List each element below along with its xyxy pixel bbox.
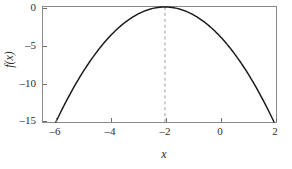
x-tick-label: –4 [90, 125, 130, 137]
x-tick-mark [111, 118, 112, 122]
x-tick-mark [166, 118, 167, 122]
y-tick-mark [43, 46, 47, 47]
x-tick-mark [221, 118, 222, 122]
parabola-path [56, 7, 274, 122]
y-tick-label: –15 [0, 114, 36, 126]
x-tick-mark [276, 118, 277, 122]
figure-canvas: 0 –5 –10 –15 f(x) –6 –4 –2 0 2 x [0, 0, 292, 169]
x-axis-label-text: x [161, 147, 166, 161]
y-tick-mark [43, 8, 47, 9]
plot-area [42, 6, 277, 123]
x-tick-label: 0 [200, 125, 240, 137]
y-tick-mark [43, 84, 47, 85]
x-axis-label: x [0, 147, 292, 162]
x-tick-label: –2 [145, 125, 185, 137]
x-tick-label: –6 [35, 125, 75, 137]
y-axis-label: f(x) [2, 32, 17, 88]
x-tick-mark [56, 118, 57, 122]
x-tick-label: 2 [255, 125, 292, 137]
curve-svg [43, 7, 276, 122]
y-tick-label: 0 [0, 1, 36, 13]
y-tick-mark [43, 121, 47, 122]
